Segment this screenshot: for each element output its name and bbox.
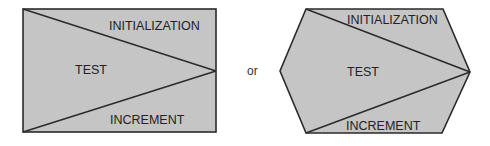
hexagon-loop-symbol: INITIALIZATION TEST INCREMENT: [280, 9, 470, 133]
loop-symbol-diagram: INITIALIZATION TEST INCREMENT or INITIAL…: [0, 0, 490, 146]
hexagon-test-label: TEST: [347, 65, 379, 79]
hexagon-initialization-label: INITIALIZATION: [347, 13, 438, 27]
rectangle-test-label: TEST: [75, 63, 107, 77]
rectangle-initialization-label: INITIALIZATION: [109, 19, 200, 33]
rectangle-increment-label: INCREMENT: [110, 113, 185, 127]
or-connector-label: or: [247, 64, 258, 78]
hexagon-increment-label: INCREMENT: [346, 119, 421, 133]
rectangle-loop-symbol: INITIALIZATION TEST INCREMENT: [23, 9, 216, 132]
